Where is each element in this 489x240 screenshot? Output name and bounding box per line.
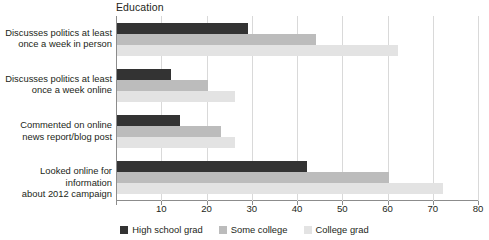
category-label-line: about 2012 campaign	[0, 188, 112, 200]
category-label-line: Looked online for information	[0, 165, 112, 188]
bar-group	[117, 23, 478, 56]
bar	[117, 137, 235, 148]
legend-swatch-icon	[304, 226, 312, 234]
category-label: Looked online for informationabout 2012 …	[0, 165, 112, 200]
bar	[117, 91, 235, 102]
bar	[117, 34, 316, 45]
bar	[117, 69, 171, 80]
category-label: Discusses politics at leastonce a week o…	[0, 73, 112, 96]
bar-group	[117, 161, 478, 194]
bar	[117, 161, 307, 172]
category-label-line: once a week in person	[0, 38, 112, 50]
chart-legend: High school gradSome collegeCollege grad	[0, 224, 489, 235]
bar	[117, 23, 248, 34]
legend-item-some-college[interactable]: Some college	[219, 224, 288, 235]
category-label: Discusses politics at leastonce a week i…	[0, 27, 112, 50]
bar	[117, 80, 208, 91]
category-label-line: news report/blog post	[0, 131, 112, 143]
bar	[117, 126, 221, 137]
category-axis-labels: Discusses politics at leastonce a week i…	[0, 16, 112, 201]
gridline-80	[478, 16, 479, 201]
chart-title: Education	[116, 1, 164, 13]
legend-label: Some college	[231, 224, 288, 235]
x-tick-label-70: 70	[427, 203, 438, 214]
category-label-line: Discusses politics at least	[0, 73, 112, 85]
legend-item-college-grad[interactable]: College grad	[304, 224, 369, 235]
legend-label: College grad	[316, 224, 369, 235]
education-bar-chart: Education Discusses politics at leastonc…	[0, 0, 489, 240]
x-tick-label-20: 20	[201, 203, 212, 214]
x-tick-label-10: 10	[156, 203, 167, 214]
category-label-line: Commented on online	[0, 119, 112, 131]
bar	[117, 45, 398, 56]
legend-swatch-icon	[120, 226, 128, 234]
x-tick-mark-0	[116, 201, 117, 205]
legend-swatch-icon	[219, 226, 227, 234]
bar	[117, 115, 180, 126]
category-label-line: once a week online	[0, 84, 112, 96]
plot-area	[116, 16, 478, 201]
x-tick-label-80: 80	[473, 203, 484, 214]
bar	[117, 183, 443, 194]
category-label-line: Discusses politics at least	[0, 27, 112, 39]
bar-group	[117, 115, 478, 148]
legend-item-high-school-grad[interactable]: High school grad	[120, 224, 202, 235]
x-tick-label-40: 40	[292, 203, 303, 214]
category-label: Commented on onlinenews report/blog post	[0, 119, 112, 142]
legend-label: High school grad	[132, 224, 202, 235]
bar	[117, 172, 389, 183]
x-tick-label-50: 50	[337, 203, 348, 214]
x-tick-label-60: 60	[382, 203, 393, 214]
bar-group	[117, 69, 478, 102]
x-tick-label-30: 30	[246, 203, 257, 214]
